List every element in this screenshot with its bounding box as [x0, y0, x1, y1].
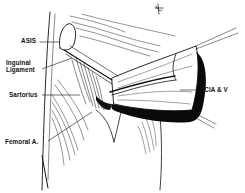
- label-femoral-artery: Femoral A.: [5, 139, 38, 146]
- anatomical-figure: ASIS Inguinal Ligament Sartorius Femoral…: [0, 0, 245, 193]
- label-scia-v: SCIA & V: [200, 87, 228, 94]
- label-inguinal-ligament-line2: Ligament: [6, 67, 35, 74]
- label-asis: ASIS: [21, 38, 36, 45]
- label-sartorius: Sartorius: [9, 92, 38, 99]
